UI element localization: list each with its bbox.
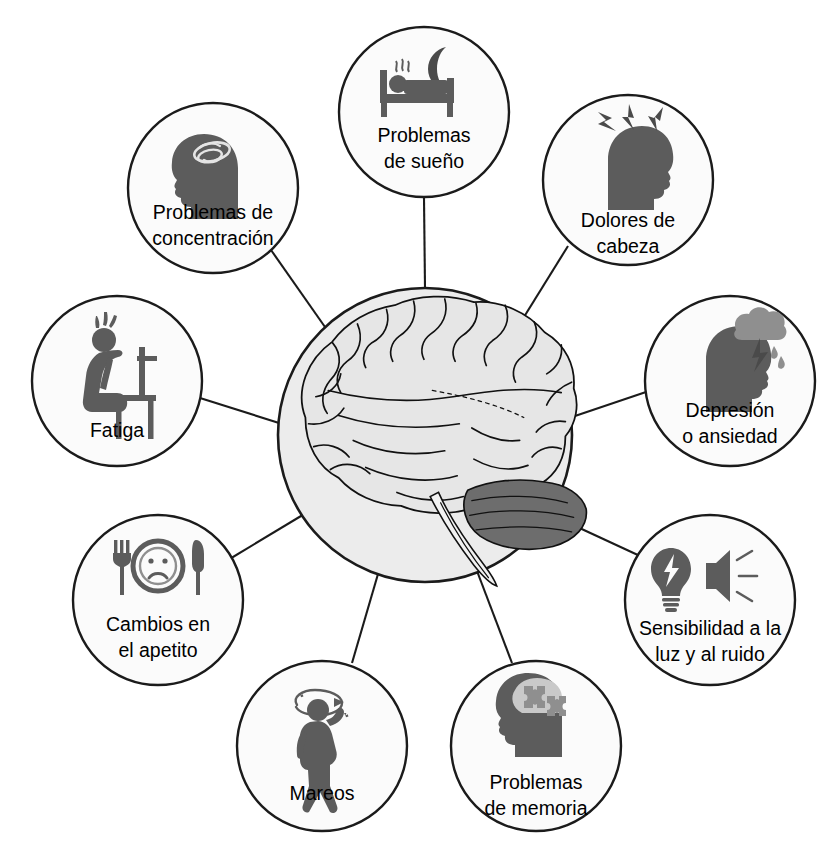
diagram-canvas: Problemas de sueño Dolores de cabeza [0, 0, 839, 862]
spoke-to-problemas-de-sueno [424, 198, 425, 288]
node-cambios-en-el-apetito[interactable]: Cambios en el apetito [73, 515, 243, 685]
node-label-line-1: Problemas de [153, 201, 273, 223]
node-label-line-1: Dolores de [581, 209, 675, 231]
node-label-line-2: luz y al ruido [655, 643, 765, 665]
node-mareos[interactable]: Mareos [237, 661, 407, 831]
node-label-line-1: Fatiga [90, 419, 144, 441]
node-fatiga[interactable]: Fatiga [32, 296, 202, 466]
spoke-to-mareos [352, 574, 378, 663]
spoke-to-cambios-en-el-apetito [228, 513, 306, 560]
node-label-line-2: de sueño [384, 150, 464, 172]
spoke-to-depresion-o-ansiedad [572, 392, 646, 417]
node-label-line-2: o ansiedad [682, 425, 777, 447]
symptoms-hub-diagram: Problemas de sueño Dolores de cabeza [0, 0, 839, 862]
node-depresion-o-ansiedad[interactable]: Depresión o ansiedad [645, 296, 815, 466]
node-label-line-2: cabeza [597, 235, 660, 257]
node-label-line-1: Mareos [289, 782, 354, 804]
node-label-line-2: el apetito [118, 639, 197, 661]
node-label-line-1: Problemas [489, 771, 582, 793]
node-label-line-1: Depresión [686, 399, 775, 421]
node-label-line-1: Problemas [377, 124, 470, 146]
spoke-to-dolores-de-cabeza [519, 246, 568, 325]
node-label-line-2: de memoria [485, 797, 588, 819]
node-sensibilidad-a-la-luz-y-al-ruido[interactable]: Sensibilidad a la luz y al ruido [625, 515, 795, 685]
node-label-line-1: Sensibilidad a la [639, 617, 781, 639]
node-label-line-1: Cambios en [106, 613, 210, 635]
node-dolores-de-cabeza[interactable]: Dolores de cabeza [543, 95, 713, 265]
node-problemas-de-sueno[interactable]: Problemas de sueño [339, 27, 509, 197]
center-node-brain[interactable] [278, 288, 586, 586]
node-problemas-de-memoria[interactable]: Problemas de memoria [451, 661, 621, 831]
spoke-to-problemas-de-concentracion [271, 250, 325, 327]
node-label-line-2: concentración [152, 227, 273, 249]
spoke-to-fatiga [200, 398, 279, 423]
node-problemas-de-concentracion[interactable]: Problemas de concentración [128, 103, 298, 273]
